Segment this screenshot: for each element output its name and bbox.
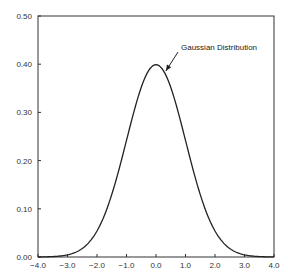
x-tick-label: −3.0 [60, 261, 76, 270]
y-tick-label: 0.10 [16, 205, 32, 214]
arrowhead-icon [166, 65, 171, 71]
y-tick-label: 0.40 [16, 60, 32, 69]
y-tick-label: 0.30 [16, 108, 32, 117]
curve-annotation: Gaussian Distribution [166, 43, 257, 71]
plot-frame [38, 16, 274, 257]
plot-border [38, 16, 274, 257]
x-tick-label: 4.0 [268, 261, 280, 270]
annotation-label: Gaussian Distribution [181, 43, 257, 52]
y-tick-label: 0.20 [16, 157, 32, 166]
y-tick-label: 0.50 [16, 12, 32, 21]
gaussian-chart: 0.000.100.200.300.400.50 −4.0−3.0−2.0−1.… [0, 0, 288, 279]
y-axis: 0.000.100.200.300.400.50 [16, 12, 41, 262]
x-axis: −4.0−3.0−2.0−1.00.01.02.03.04.0 [30, 254, 280, 270]
x-tick-label: 2.0 [209, 261, 221, 270]
x-tick-label: −1.0 [119, 261, 135, 270]
x-tick-label: 0.0 [150, 261, 162, 270]
x-tick-label: −4.0 [30, 261, 46, 270]
gaussian-curve [38, 65, 274, 257]
x-tick-label: 3.0 [239, 261, 251, 270]
x-tick-label: −2.0 [89, 261, 105, 270]
x-tick-label: 1.0 [180, 261, 192, 270]
